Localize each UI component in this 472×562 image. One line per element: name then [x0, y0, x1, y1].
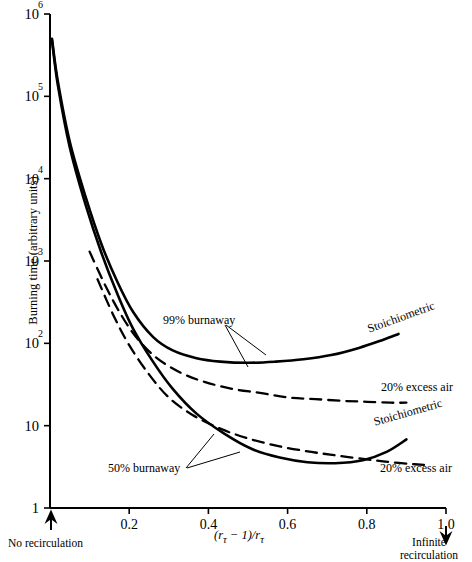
- chart-canvas: 106105104103102101 0.20.40.60.81.0: [0, 0, 472, 562]
- x-tick-label-2: 0.6: [279, 517, 297, 532]
- y-tick-label-0: 10: [25, 6, 40, 22]
- infinite-recirculation-label: Infinite recirculation: [386, 536, 472, 562]
- y-tick-label-6: 1: [32, 500, 39, 516]
- x-axis-title-mid: − 1)/r: [227, 528, 260, 542]
- leader-99-a: [225, 325, 248, 367]
- figure-burning-time-vs-recirculation: 106105104103102101 0.20.40.60.81.0 Burni…: [0, 0, 472, 562]
- y-tick-label-5: 10: [25, 418, 40, 434]
- infinite-recirculation-line2: recirculation: [386, 549, 472, 562]
- y-tick-exponent-1: 5: [38, 81, 43, 92]
- label-excess-air-upper: 20% excess air: [381, 380, 453, 395]
- x-axis-title-sub2: τ: [260, 534, 264, 545]
- y-tick-label-4: 10: [25, 335, 40, 351]
- x-axis-title-prefix: (r: [214, 528, 223, 542]
- curve-3: [98, 279, 431, 465]
- leader-50-b: [187, 452, 240, 468]
- arrow-no-recirculation: [47, 512, 55, 530]
- label-50-burnaway: 50% burnaway: [108, 461, 180, 476]
- label-excess-air-lower: 20% excess air: [380, 461, 452, 476]
- y-tick-label-1: 10: [25, 88, 40, 104]
- infinite-recirculation-line1: Infinite: [386, 536, 472, 549]
- label-99-burnaway: 99% burnaway: [163, 313, 235, 328]
- curve-1: [90, 252, 407, 403]
- y-axis-title: Burning time (arbitrary units): [26, 166, 41, 336]
- x-axis-ticks: 0.20.40.60.81.0: [120, 508, 454, 532]
- y-tick-exponent-0: 6: [38, 0, 43, 10]
- no-recirculation-label: No recirculation: [8, 537, 83, 550]
- x-axis-title: (rτ − 1)/rτ: [214, 528, 264, 545]
- annotation-leader-lines: [186, 325, 266, 468]
- leader-99-b: [226, 325, 266, 355]
- x-tick-label-0: 0.2: [120, 517, 138, 532]
- leader-50-a: [186, 434, 214, 468]
- data-curves: [52, 39, 430, 466]
- x-tick-label-3: 0.8: [358, 517, 376, 532]
